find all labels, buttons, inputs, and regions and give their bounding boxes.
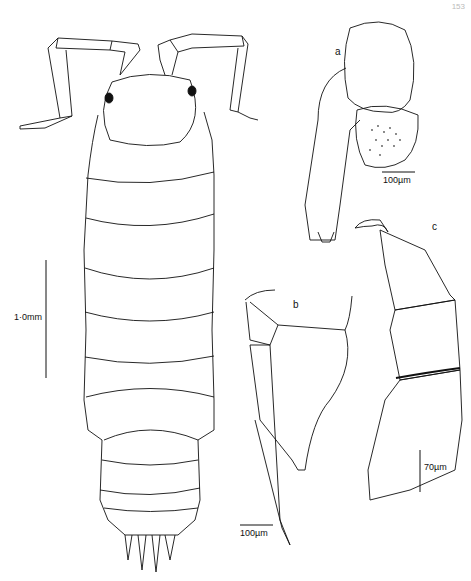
scientific-figure: 153 [0,0,471,581]
panel-a-scale-label: 100µm [383,176,411,185]
habitus-drawing [0,0,471,581]
panel-c-label: c [432,222,437,232]
habitus-scale-label: 1·0mm [14,313,42,322]
panel-c-scale-label: 70µm [424,463,447,472]
panel-b-label: b [293,300,299,310]
panel-a-label: a [335,47,341,57]
panel-b-scale-label: 100µm [240,529,268,538]
